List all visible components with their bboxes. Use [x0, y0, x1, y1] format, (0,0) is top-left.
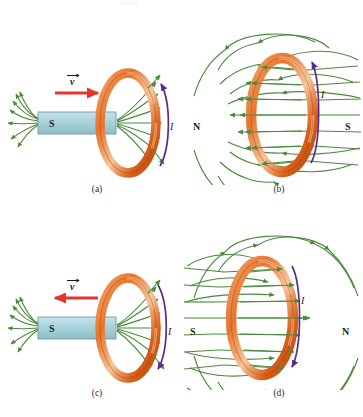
- panel-b-current-label: I: [320, 89, 325, 100]
- panel-c-velocity: v: [55, 279, 98, 299]
- panel-a-pole-s: S: [49, 118, 55, 129]
- panel-d-caption: (d): [259, 388, 299, 398]
- panel-c-left-flux: [8, 297, 38, 352]
- panel-a-diagram: S N v: [0, 20, 182, 185]
- panel-d-diagram: I S N: [182, 222, 363, 390]
- panel-a-caption: (a): [77, 184, 117, 194]
- figure-root: S N v: [0, 0, 363, 417]
- panel-b-pole-right: S: [345, 121, 351, 132]
- panel-b-caption: (b): [259, 184, 299, 194]
- panel-a-current-label: I: [169, 121, 174, 132]
- panel-a-velocity: v: [55, 74, 98, 94]
- top-edge-artifact: [120, 1, 138, 6]
- panel-b-pole-left: N: [193, 121, 201, 132]
- panel-d-pole-left: S: [190, 326, 196, 337]
- panel-d-right-curves: [315, 244, 358, 390]
- panel-c-pole-s: S: [49, 323, 55, 334]
- panel-c-diagram: S N v I: [0, 222, 182, 390]
- panel-a-velocity-label: v: [70, 76, 75, 87]
- panel-a-left-flux: [8, 92, 38, 147]
- panel-a-current: I: [160, 84, 174, 166]
- panel-d-current-label: I: [300, 295, 305, 306]
- panel-c-caption: (c): [77, 388, 117, 398]
- panel-c-current-label: I: [167, 326, 172, 337]
- panel-d-pole-right: N: [342, 326, 350, 337]
- panel-c-velocity-label: v: [70, 281, 75, 292]
- panel-b-diagram: I N S: [182, 20, 363, 185]
